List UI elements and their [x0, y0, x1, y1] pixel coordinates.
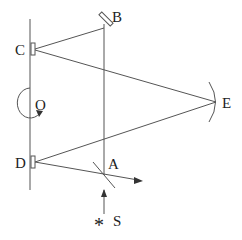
mirror-b [99, 12, 113, 26]
label-c: C [15, 42, 25, 58]
optical-diagram: B C O E D A * S [0, 0, 242, 240]
arrowhead-source [101, 189, 107, 197]
beam-c-to-e [35, 50, 216, 102]
label-o: O [35, 97, 46, 113]
beam-e-to-d [35, 102, 216, 162]
beam-d-through-a [35, 162, 138, 180]
source-asterisk-icon: * [94, 214, 104, 236]
label-e: E [222, 95, 231, 111]
label-b: B [112, 9, 122, 25]
arrowhead-output [134, 177, 143, 184]
mirror-c [31, 43, 35, 55]
label-a: A [108, 156, 119, 172]
label-d: D [15, 155, 26, 171]
mirror-d [31, 156, 35, 168]
beam-b-to-c [35, 28, 104, 49]
label-s: S [113, 213, 121, 229]
